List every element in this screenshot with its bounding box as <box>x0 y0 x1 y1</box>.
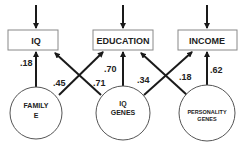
coef-personality-genes-education: .18 <box>179 72 192 82</box>
path-family-e-to-education <box>59 52 103 95</box>
box-income-label: INCOME <box>189 36 225 46</box>
box-iq-label: IQ <box>31 36 41 46</box>
coef-family-e-education: .45 <box>53 78 66 88</box>
personality-genes-line1: PERSONALITY <box>187 109 226 115</box>
box-education-label: EDUCATION <box>97 36 150 46</box>
coef-iq-genes-income: .34 <box>137 75 150 85</box>
family-e-line1: FAMILY <box>23 102 48 109</box>
coef-iq-genes-education: .70 <box>104 64 117 74</box>
iq-genes-line1: IQ <box>119 100 127 108</box>
circle-personality-genes: PERSONALITY GENES <box>179 85 235 141</box>
circle-iq-genes: IQ GENES <box>96 86 150 140</box>
path-diagram: IQ EDUCATION INCOME .18 .45 .71 .70 .34 … <box>0 0 241 147</box>
box-education: EDUCATION <box>93 30 153 50</box>
box-income: INCOME <box>178 30 237 50</box>
box-iq: IQ <box>8 30 58 50</box>
coef-iq-genes-iq: .71 <box>93 78 106 88</box>
circle-family-e: FAMILY E <box>10 87 62 139</box>
personality-genes-line2: GENES <box>197 116 217 122</box>
family-e-line2: E <box>34 112 39 119</box>
coef-personality-genes-income: .62 <box>210 65 223 75</box>
coef-family-e-iq: .18 <box>20 58 33 68</box>
iq-genes-line2: GENES <box>111 109 136 116</box>
